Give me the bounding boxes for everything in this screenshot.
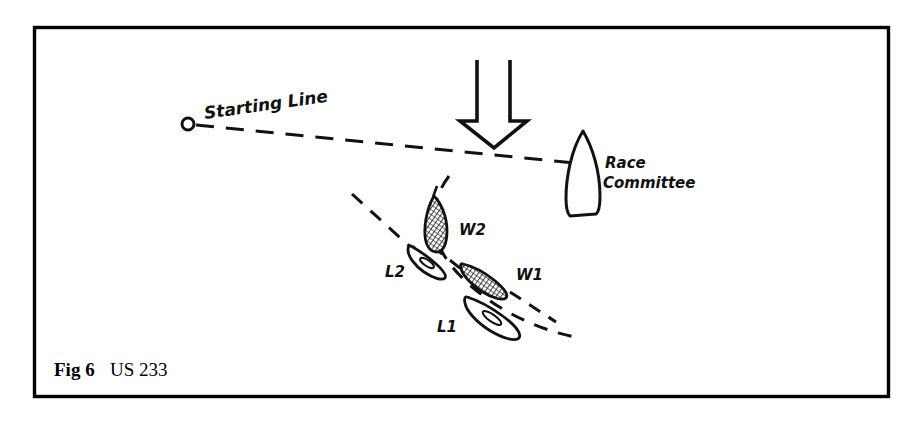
boat-W1-label: W1 <box>516 266 543 284</box>
pin-mark-buoy-icon <box>182 118 194 130</box>
sailing-rules-diagram: Starting Line Race Committee <box>0 0 914 425</box>
race-committee-label-line1: Race <box>605 154 646 172</box>
caption-case-reference: US 233 <box>110 359 168 380</box>
boat-W2-label: W2 <box>459 221 486 239</box>
boat-L1-label: L1 <box>437 318 457 336</box>
boat-L2-label: L2 <box>385 263 405 281</box>
figure-caption: Fig 6 US 233 <box>54 359 168 380</box>
figure-container: Starting Line Race Committee <box>0 0 914 425</box>
race-committee-label-line2: Committee <box>603 174 695 192</box>
caption-figure-number: Fig 6 <box>54 359 95 380</box>
